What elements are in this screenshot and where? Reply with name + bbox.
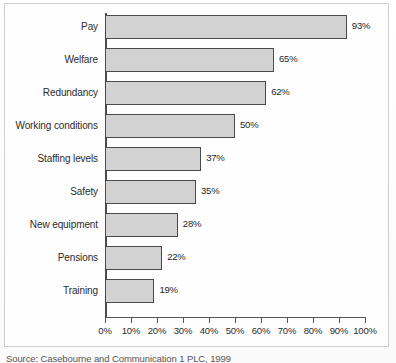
bar: [105, 180, 196, 204]
x-axis-tick: [313, 318, 314, 323]
bar-value-label: 65%: [279, 53, 297, 64]
x-axis-tick-label: 100%: [348, 325, 382, 336]
bar: [105, 147, 201, 171]
bar: [105, 15, 347, 39]
bar: [105, 213, 178, 237]
x-axis-tick: [365, 318, 366, 323]
bar-value-label: 28%: [183, 218, 201, 229]
figure-caption: Source: Casebourne and Communication 1 P…: [6, 353, 231, 363]
bar: [105, 114, 235, 138]
bar-row: 93%: [105, 15, 365, 39]
x-axis-tick: [261, 318, 262, 323]
bar-row: 37%: [105, 147, 365, 171]
category-label: Safety: [0, 186, 98, 197]
category-label: Redundancy: [0, 87, 98, 98]
bar-row: 28%: [105, 213, 365, 237]
category-label: Staffing levels: [0, 153, 98, 164]
bar-row: 22%: [105, 246, 365, 270]
x-axis-tick: [157, 318, 158, 323]
bar-value-label: 22%: [167, 251, 185, 262]
bar-value-label: 93%: [352, 20, 370, 31]
bar-row: 35%: [105, 180, 365, 204]
bar-value-label: 37%: [206, 152, 224, 163]
bar: [105, 48, 274, 72]
category-label: New equipment: [0, 219, 98, 230]
x-axis-tick: [287, 318, 288, 323]
category-label: Working conditions: [0, 120, 98, 131]
bar-value-label: 35%: [201, 185, 219, 196]
bar-row: 19%: [105, 279, 365, 303]
bar-row: 65%: [105, 48, 365, 72]
x-axis-tick: [183, 318, 184, 323]
chart-screenshot: 0%10%20%30%40%50%60%70%80%90%100% 93%65%…: [0, 0, 396, 363]
bar-row: 62%: [105, 81, 365, 105]
x-axis-tick: [339, 318, 340, 323]
bar: [105, 81, 266, 105]
x-axis-tick: [209, 318, 210, 323]
x-axis-tick: [235, 318, 236, 323]
bar: [105, 246, 162, 270]
x-axis-tick: [131, 318, 132, 323]
category-label: Training: [0, 285, 98, 296]
bar-value-label: 62%: [271, 86, 289, 97]
x-axis-tick: [105, 318, 106, 323]
category-label: Pensions: [0, 252, 98, 263]
category-label: Pay: [0, 21, 98, 32]
bar: [105, 279, 154, 303]
bar-row: 50%: [105, 114, 365, 138]
bar-value-label: 50%: [240, 119, 258, 130]
category-label: Welfare: [0, 54, 98, 65]
bar-value-label: 19%: [159, 284, 177, 295]
